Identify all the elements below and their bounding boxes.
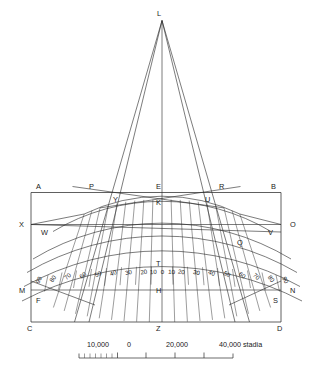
label-W: W	[41, 228, 48, 237]
outer-frame	[31, 193, 281, 323]
label-U: U	[205, 195, 210, 204]
degree-label-e80: 80	[267, 274, 277, 284]
degree-label-zero: 0	[161, 268, 165, 275]
chord-lines	[31, 225, 281, 291]
degree-label-w80: 80	[48, 273, 58, 283]
label-N: N	[290, 286, 295, 295]
scale-label-10000: 10,000	[87, 340, 109, 349]
label-S: S	[273, 296, 278, 305]
label-Q: Q	[237, 238, 243, 247]
label-V: V	[268, 228, 273, 237]
label-R: R	[219, 182, 224, 191]
label-T: T	[156, 259, 161, 268]
degree-label-center-group: 0	[161, 268, 165, 275]
point-label-group: L A B C D E P R Y K U X O W V T Q M N F …	[19, 9, 296, 333]
label-B: B	[271, 182, 276, 191]
scale-label-40000-stadia: 40,000 stadia	[219, 340, 262, 349]
apex-radiating-lines	[75, 21, 250, 323]
label-Z: Z	[156, 324, 161, 333]
scale-label-0: 0	[127, 340, 131, 349]
label-H: H	[156, 286, 161, 295]
degree-labels-east: 10 20 30 40 50 60 70 80 90	[168, 268, 291, 285]
label-C: C	[27, 324, 33, 333]
degree-label-w10: 10	[150, 268, 158, 275]
scale-label-20000: 20,000	[166, 340, 188, 349]
degree-label-e70: 70	[252, 271, 262, 281]
degree-label-e90: 90	[281, 275, 291, 285]
degree-label-w20: 20	[140, 268, 148, 276]
label-P: P	[89, 182, 94, 191]
label-L: L	[157, 9, 161, 18]
label-K: K	[156, 198, 161, 207]
degree-label-w30: 30	[124, 268, 133, 277]
projection-diagram: L A B C D E P R Y K U X O W V T Q M N F …	[0, 0, 313, 374]
label-D: D	[277, 324, 282, 333]
scale-bar: 10,000 0 20,000 40,000 stadia	[79, 340, 262, 358]
label-O: O	[290, 220, 296, 229]
degree-label-w90: 90	[34, 275, 44, 285]
label-M: M	[19, 286, 25, 295]
degree-label-e10: 10	[168, 268, 176, 275]
label-Y: Y	[113, 195, 118, 204]
label-X: X	[19, 220, 24, 229]
label-F: F	[36, 296, 41, 305]
degree-label-e30: 30	[192, 268, 201, 277]
degree-label-w70: 70	[62, 271, 72, 281]
label-A: A	[36, 182, 41, 191]
degree-label-e40: 40	[207, 268, 216, 277]
label-E: E	[156, 182, 161, 191]
